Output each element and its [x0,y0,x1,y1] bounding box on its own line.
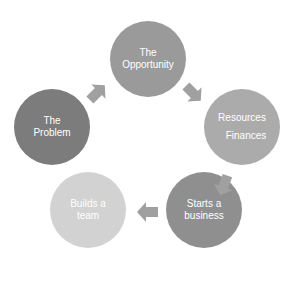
node-label-line: Problem [33,127,70,139]
node-label-line: business [184,210,223,222]
node-resources-finances: Resources Finances [204,89,280,165]
node-the-problem: The Problem [14,89,90,165]
node-label-line: The [139,47,156,59]
node-the-opportunity: The Opportunity [110,21,186,97]
node-builds-a-team: Builds a team [50,172,126,248]
arrow-starts-to-builds-icon [135,199,161,225]
node-label-line: Builds a [70,198,106,210]
node-label-line: Opportunity [122,59,174,71]
arrow-resources-to-starts-icon [211,172,237,198]
arrow-opportunity-to-resources-icon [180,80,206,106]
node-label-line: Starts a [187,198,221,210]
node-label-line: Resources [218,112,266,124]
node-label-line: The [43,115,60,127]
arrow-problem-to-opportunity-icon [84,80,110,106]
node-label-line: team [77,210,99,222]
node-label-line: Finances [226,130,267,142]
